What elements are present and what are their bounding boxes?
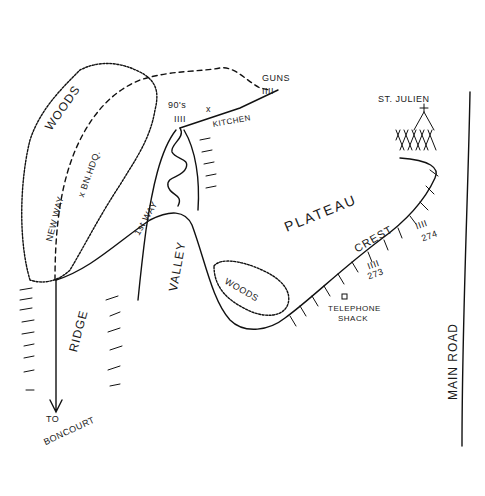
map-drawing — [0, 0, 485, 496]
winding-trench — [168, 128, 187, 206]
label-shack: SHACK — [338, 314, 368, 323]
label-nineties: 90's — [168, 100, 186, 110]
kitchen-marker: x — [206, 104, 211, 114]
woods-south-outline — [214, 261, 289, 315]
label-st-julien: ST. JULIEN — [378, 94, 430, 104]
road-to-boncourt — [50, 280, 62, 412]
label-to: TO — [46, 414, 59, 424]
telephone-shack-marker — [342, 294, 347, 299]
label-telephone: TELEPHONE — [328, 304, 381, 313]
main-road-line — [462, 92, 470, 446]
hand-drawn-map: WOODS x BN.HDQ. NEW WAY 1st WAY 90's III… — [0, 0, 485, 496]
st-julien-village — [396, 104, 436, 150]
valley-right — [184, 130, 198, 210]
label-main-road: MAIN ROAD — [446, 323, 460, 400]
unit-marks-guns: IIII — [262, 86, 274, 96]
label-guns: GUNS — [262, 73, 290, 83]
unit-marks-nineties: IIII — [174, 114, 186, 124]
